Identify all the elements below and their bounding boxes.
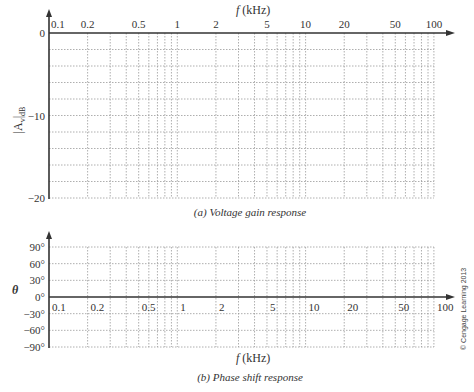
gain-y-tick-label: −10	[28, 110, 46, 122]
phase-y-axis-arrow-icon	[46, 231, 52, 239]
gain-x-tick-label: 5	[264, 18, 270, 30]
gain-chart-gridlines	[49, 33, 434, 198]
phase-x-tick-label: 50	[398, 301, 410, 313]
gain-y-tick-label: 0	[40, 27, 46, 39]
gain-x-tick-label: 1	[175, 18, 181, 30]
gain-y-axis-title: |Av|dB	[11, 107, 27, 134]
bode-plot-figure: 0.10.20.5125102050100 0−10−20 f (kHz) |A…	[0, 0, 474, 392]
gain-x-tick-label: 50	[390, 18, 402, 30]
copyright-notice: © Cengage Learning 2013	[460, 268, 468, 350]
gain-x-axis-title: f (kHz)	[236, 3, 270, 17]
gain-x-tick-label: 0.2	[81, 18, 95, 30]
phase-chart-caption: (b) Phase shift response	[197, 371, 303, 384]
phase-y-tick-label: 30°	[30, 274, 45, 286]
phase-y-tick-label: −30°	[23, 308, 45, 320]
phase-x-tick-label: 1	[180, 301, 186, 313]
gain-x-tick-label: 100	[426, 18, 443, 30]
phase-y-tick-label: 90°	[30, 241, 45, 253]
phase-x-tick-label: 0.5	[142, 301, 156, 313]
phase-y-tick-label: −60°	[23, 324, 45, 336]
phase-y-tick-label: 0°	[35, 291, 45, 303]
gain-chart-caption: (a) Voltage gain response	[194, 206, 306, 219]
phase-y-tick-label: 60°	[30, 258, 45, 270]
gain-y-tick-labels: 0−10−20	[28, 27, 46, 204]
phase-x-axis-arrow-icon	[446, 294, 455, 300]
phase-x-tick-label: 5	[270, 301, 276, 313]
gain-x-tick-label: 0.5	[132, 18, 146, 30]
phase-x-tick-label: 10	[309, 301, 321, 313]
phase-y-tick-label: −90°	[23, 341, 45, 353]
gain-y-axis-arrow-icon	[46, 9, 52, 17]
gain-chart-axes	[46, 9, 455, 199]
phase-y-tick-labels: 90°60°30°0°−30°−60°−90°	[23, 241, 45, 353]
phase-x-tick-label: 0.2	[91, 301, 105, 313]
gain-x-tick-labels: 0.10.20.5125102050100	[51, 18, 443, 30]
phase-x-tick-label: 20	[347, 301, 359, 313]
phase-x-tick-label: 2	[219, 301, 225, 313]
phase-y-axis-title: θ	[12, 283, 19, 297]
gain-x-axis-arrow-icon	[446, 30, 455, 36]
gain-x-tick-label: 10	[300, 18, 312, 30]
phase-x-tick-labels: 0.10.20.5125102050100	[52, 301, 454, 313]
phase-x-tick-label: 100	[437, 301, 454, 313]
gain-x-tick-label: 0.1	[51, 18, 65, 30]
gain-x-tick-label: 20	[339, 18, 351, 30]
phase-x-tick-label: 0.1	[52, 301, 66, 313]
gain-x-tick-label: 2	[213, 18, 219, 30]
phase-x-axis-title: f (kHz)	[236, 351, 270, 365]
gain-y-tick-label: −20	[28, 192, 46, 204]
svg-text:|Av|dB: |Av|dB	[11, 107, 27, 134]
